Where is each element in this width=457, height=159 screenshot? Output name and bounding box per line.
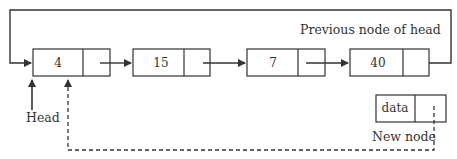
node-value: 4 (54, 56, 62, 70)
node-value: 40 (370, 56, 385, 70)
head-pointer: Head (26, 80, 60, 125)
node-40: 40 (350, 49, 429, 76)
new-node-value: data (382, 101, 409, 115)
node-value: 7 (269, 56, 277, 70)
new-node-label: New node (372, 129, 436, 144)
new-node: data New node (372, 95, 446, 144)
node-4: 4 (33, 49, 110, 76)
node-value: 15 (153, 56, 168, 70)
node-15: 15 (133, 49, 210, 76)
head-label: Head (26, 110, 60, 125)
linked-list-diagram: 4 15 7 40 Previous node of head Head dat… (0, 0, 457, 159)
previous-node-label: Previous node of head (300, 22, 441, 37)
